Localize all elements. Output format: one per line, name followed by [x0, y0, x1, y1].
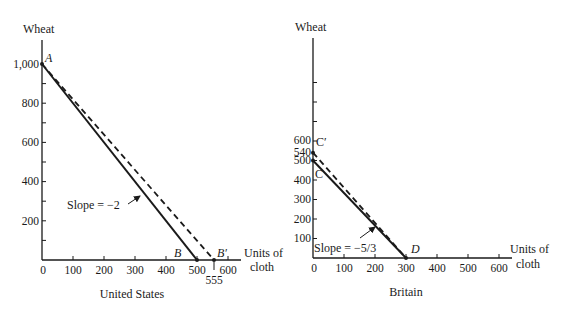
us-x-tick-0: 0 — [40, 264, 46, 276]
britain-label-d: D — [410, 242, 420, 256]
us-y-tick-600: 600 — [22, 136, 40, 148]
us-y-tick-1000: 1,000 — [13, 58, 39, 71]
us-y-tick-200: 200 — [22, 215, 40, 227]
britain-y-tick-600: 600 — [294, 134, 312, 146]
britain-x-tick-400: 400 — [428, 262, 446, 274]
us-x-tick-100: 100 — [64, 264, 82, 276]
britain-x-axis-label-2: cloth — [516, 257, 540, 271]
us-point-a — [40, 62, 44, 66]
us-slope-label: Slope = −2 — [67, 198, 120, 212]
us-y-axis-label: Wheat — [23, 22, 55, 36]
us-x-tick-200: 200 — [95, 264, 113, 276]
britain-x-axis-label-1: Units of — [510, 242, 549, 256]
britain-point-c — [311, 159, 315, 163]
us-trade-line — [42, 64, 214, 260]
us-y-tick-400: 400 — [22, 175, 40, 187]
us-point-b-prime — [212, 258, 216, 262]
britain-y-tick-540: 540 — [294, 146, 312, 158]
us-x-tick-300: 300 — [126, 264, 144, 276]
us-ppf-line — [42, 64, 197, 260]
britain-y-tick-100: 100 — [294, 232, 312, 244]
us-label-a: A — [44, 51, 53, 65]
us-x-tick-400: 400 — [157, 264, 175, 276]
britain-chart-title: Britain — [389, 285, 422, 299]
us-label-555: 555 — [205, 274, 223, 286]
britain-x-tick-200: 200 — [366, 262, 384, 274]
charts-canvas: Wheat 200 400 600 800 1,000 0 — [0, 0, 568, 315]
britain-label-c: C — [315, 167, 323, 181]
britain-y-tick-400: 400 — [294, 174, 312, 186]
britain-x-tick-300: 300 — [397, 262, 415, 274]
us-point-b — [195, 258, 199, 262]
britain-x-tick-100: 100 — [335, 262, 353, 274]
britain-slope-label: Slope = −5/3 — [314, 241, 376, 255]
britain-slope-arrow-icon — [360, 227, 375, 238]
us-x-tick-500: 500 — [188, 264, 206, 276]
britain-y-tick-200: 200 — [294, 213, 312, 225]
us-y-tick-800: 800 — [22, 97, 40, 109]
britain-chart: Wheat 100 200 300 400 500 540 600 — [294, 20, 549, 299]
us-label-b-prime: B′ — [217, 246, 227, 260]
us-slope-arrow-icon — [128, 196, 140, 204]
us-label-b: B — [174, 246, 182, 260]
us-chart: Wheat 200 400 600 800 1,000 0 — [13, 22, 283, 301]
britain-label-c-prime: C′ — [316, 135, 327, 149]
us-x-axis-label-1: Units of — [244, 246, 283, 260]
britain-point-d — [404, 256, 408, 260]
us-chart-title: United States — [100, 287, 165, 301]
britain-x-tick-500: 500 — [459, 262, 477, 274]
britain-y-axis-label: Wheat — [295, 20, 327, 34]
us-x-axis-label-2: cloth — [250, 260, 274, 274]
britain-y-tick-300: 300 — [294, 193, 312, 205]
britain-x-tick-0: 0 — [311, 262, 317, 274]
britain-point-c-prime — [311, 151, 315, 155]
britain-x-tick-600: 600 — [490, 262, 508, 274]
